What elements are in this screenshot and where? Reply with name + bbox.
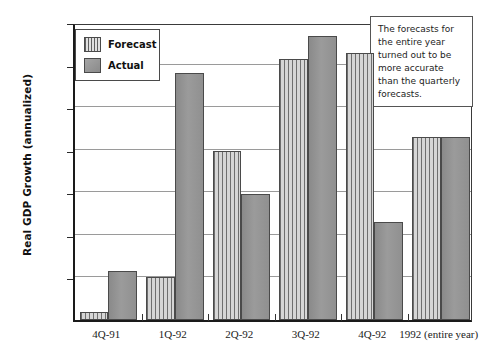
legend-label-forecast: Forecast (108, 39, 156, 50)
x-axis-tick (275, 314, 276, 321)
chart-legend: Forecast Actual (75, 29, 160, 81)
annotation-callout: The forecasts for the entire year turned… (370, 16, 473, 107)
bar-forecast-4 (346, 53, 375, 320)
bar-forecast-5 (412, 137, 441, 320)
bar-forecast-2 (213, 151, 242, 320)
x-axis-label-5: 1992 (entire year) (386, 328, 485, 340)
bar-actual-2 (241, 194, 270, 320)
bar-actual-4 (374, 222, 403, 320)
y-axis-title: Real GDP Growth (annualized) (21, 76, 33, 256)
legend-item-actual: Actual (84, 58, 151, 73)
legend-label-actual: Actual (108, 60, 144, 71)
bar-actual-3 (308, 36, 337, 320)
bar-forecast-1 (146, 277, 175, 320)
x-axis-tick (208, 314, 209, 321)
bar-actual-5 (441, 137, 470, 320)
bar-forecast-3 (279, 59, 308, 320)
legend-swatch-forecast-icon (84, 37, 101, 52)
gdp-forecast-bar-chart: Real GDP Growth (annualized) 0.00%0.50%1… (0, 0, 485, 356)
bar-forecast-0 (80, 312, 109, 321)
bar-actual-1 (175, 73, 204, 320)
bar-actual-0 (108, 271, 137, 320)
x-axis-tick (142, 314, 143, 321)
legend-swatch-actual-icon (84, 58, 101, 73)
legend-item-forecast: Forecast (84, 37, 151, 52)
x-axis-tick (341, 314, 342, 321)
x-axis-tick (408, 314, 409, 321)
